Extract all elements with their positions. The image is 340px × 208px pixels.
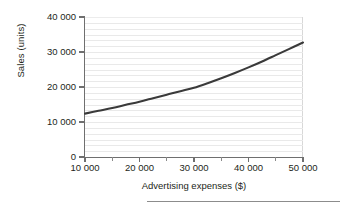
chart-figure: Sales (units) 010 00020 00030 00040 000 …: [0, 0, 340, 208]
footer-rule: [147, 201, 340, 202]
x-axis-title: Advertising expenses ($): [85, 180, 303, 191]
data-line-series: [0, 0, 340, 208]
series-sales-path: [85, 43, 303, 114]
